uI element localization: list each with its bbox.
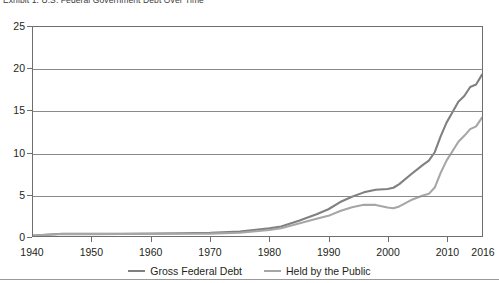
x-tick-label-1970: 1970 [198, 246, 221, 258]
y-tick-label-25: 25 [13, 20, 25, 32]
x-tick-label-1960: 1960 [139, 246, 162, 258]
x-tick-mark-1970 [210, 237, 211, 242]
y-tick-label-15: 15 [13, 104, 25, 116]
y-tick-label-0: 0 [19, 231, 25, 243]
gridline-20 [33, 69, 482, 70]
x-tick-label-1980: 1980 [258, 246, 281, 258]
x-tick-mark-1980 [269, 237, 270, 242]
x-axis: 194019501960197019801990200020102016 [32, 237, 483, 263]
gridline-5 [33, 196, 482, 197]
line-gross-federal-debt [33, 75, 482, 236]
chart-legend: Gross Federal DebtHeld by the Public [0, 264, 499, 278]
y-axis: 0510152025 [0, 18, 32, 250]
x-tick-label-2010: 2010 [436, 246, 459, 258]
legend-label-held-by-the-public: Held by the Public [286, 265, 371, 277]
x-tick-label-2000: 2000 [376, 246, 399, 258]
x-tick-label-1990: 1990 [317, 246, 340, 258]
x-tick-mark-2000 [388, 237, 389, 242]
line-held-by-the-public [33, 118, 482, 236]
x-tick-label-1950: 1950 [80, 246, 103, 258]
legend-swatch-held-by-the-public [264, 270, 281, 272]
x-tick-mark-1950 [91, 237, 92, 242]
chart-figure: Exhibit 1: U.S. Federal Government Debt … [0, 0, 499, 283]
y-tick-label-5: 5 [19, 189, 25, 201]
plot-area [32, 26, 483, 237]
legend-item-held-by-the-public[interactable]: Held by the Public [264, 265, 371, 277]
y-tick-label-10: 10 [13, 147, 25, 159]
x-tick-mark-1990 [329, 237, 330, 242]
gridline-15 [33, 111, 482, 112]
x-tick-label-1940: 1940 [20, 246, 43, 258]
footer-divider [0, 279, 499, 280]
x-tick-mark-2010 [447, 237, 448, 242]
gridline-10 [33, 154, 482, 155]
series-lines [33, 27, 482, 236]
legend-swatch-gross-federal-debt [128, 270, 145, 272]
x-tick-mark-1960 [151, 237, 152, 242]
y-tick-label-20: 20 [13, 62, 25, 74]
chart-title-clipped: Exhibit 1: U.S. Federal Government Debt … [3, 0, 483, 6]
page-title: Exhibit 1: U.S. Federal Government Debt … [3, 0, 483, 6]
legend-item-gross-federal-debt[interactable]: Gross Federal Debt [128, 265, 242, 277]
x-tick-label-2016: 2016 [471, 246, 494, 258]
legend-label-gross-federal-debt: Gross Federal Debt [150, 265, 242, 277]
